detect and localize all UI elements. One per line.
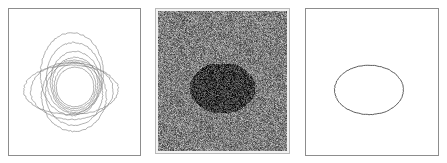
panel-noisy-image xyxy=(156,9,289,153)
contour-contour-5-inner xyxy=(54,63,96,109)
noisy-image-canvas xyxy=(158,11,287,151)
final-contour-plot xyxy=(306,9,438,155)
panel-initial-contours xyxy=(8,8,141,156)
contour-final-contour xyxy=(334,65,403,114)
contour-contour-6-circle xyxy=(56,67,94,107)
contour-contour-1-tall-outer xyxy=(40,33,103,116)
panel-final-contour xyxy=(305,8,439,156)
figure-root xyxy=(0,0,447,163)
initial-contours-plot xyxy=(9,9,140,155)
contour-contour-3-tall xyxy=(50,51,100,113)
